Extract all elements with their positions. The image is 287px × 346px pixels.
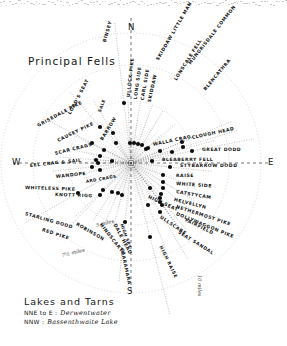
legend-rows: NNE to E :DerwentwaterNNW :Bassenthwaite… [24,309,118,326]
fell-dot-knott-rigg[interactable] [98,168,102,172]
legend-lake-name: Bassenthwaite Lake [47,318,117,326]
fell-dot-raise[interactable] [161,173,165,177]
fell-label-great-dodd: GREAT DODD [202,148,241,153]
fell-dot-hindscarth[interactable] [110,190,114,194]
fell-dot-ard-crags[interactable] [110,159,114,163]
fell-dot-mungrisdale-common[interactable] [170,150,174,154]
page-title: Principal Fells [28,55,116,67]
ray-layer [0,0,287,346]
fell-dot-carl-side[interactable] [136,142,140,146]
fell-dot-wandope[interactable] [96,161,100,165]
fell-dot-stybarrow-dodd[interactable] [168,165,172,169]
fell-dot-bleaberry-fell[interactable] [150,159,154,163]
cardinal-south: S [127,286,133,296]
fell-dot-helvellyn[interactable] [159,192,163,196]
cardinal-west: W [12,157,21,167]
fell-dot-great-dodd[interactable] [190,149,194,153]
legend-title: Lakes and Tarns [24,296,118,307]
fell-dot-lords-seat[interactable] [98,125,102,129]
fell-dot-binsey[interactable] [122,101,126,105]
fell-dot-causey-pike[interactable] [102,148,106,152]
fell-dot-catstycam[interactable] [161,186,165,190]
fell-dot-high-raise[interactable] [148,235,152,239]
fell-dot-blencathra[interactable] [181,145,185,149]
fell-dot-ullock-pike[interactable] [128,141,132,145]
fell-dot-scar-crags[interactable] [98,154,102,158]
fell-dot-whiteless-pike[interactable] [90,165,94,169]
legend-lake-name: Derwentwater [60,309,110,317]
fell-dot-ullscarf[interactable] [146,203,150,207]
legend-row-bassenthwaite: NNW :Bassenthwaite Lake [24,318,118,326]
legend-bearing: NNE to E : [24,309,57,316]
legend: Lakes and Tarns NNE to E :DerwentwaterNN… [24,296,118,326]
cardinal-north: N [128,22,135,32]
fell-dot-dale-head[interactable] [116,191,120,195]
fell-dot-high-spy[interactable] [120,193,124,197]
fell-dot-barrow[interactable] [114,141,118,145]
fell-dot-high-seat[interactable] [148,186,152,190]
fell-dot-walla-crag[interactable] [144,147,148,151]
cardinal-east: E [268,157,274,167]
scale-label-ring-10-miles: 10 miles [197,275,203,296]
legend-bearing: NNW : [24,318,44,325]
fell-dot-robinson[interactable] [101,188,105,192]
legend-row-derwentwater: NNE to E :Derwentwater [24,309,118,317]
fell-dot-long-side[interactable] [132,141,136,145]
fell-label-bleaberry-fell: BLEABERRY FELL [162,158,213,163]
fell-label-raise: RAISE [176,174,194,179]
fell-dot-red-pike[interactable] [98,193,102,197]
fell-dot-sale-fell[interactable] [111,131,115,135]
panorama-diagram: Principal Fells NWES 5 miles7½ miles10 m… [0,0,287,346]
fell-dot-lonscale-fell[interactable] [158,149,162,153]
fell-label-stybarrow-dodd: STYBARROW DODD [180,164,238,169]
fell-dot-white-side[interactable] [161,180,165,184]
fell-dot-skiddaw[interactable] [140,143,144,147]
